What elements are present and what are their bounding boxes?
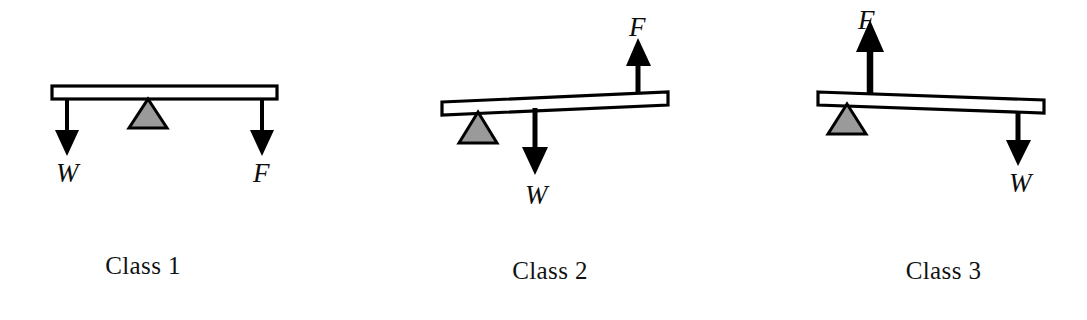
fulcrum-class-3 bbox=[828, 104, 866, 134]
force-label-f-class-2: F bbox=[629, 12, 646, 43]
force-label-f-class-3: F bbox=[858, 5, 875, 36]
beam-class-1 bbox=[52, 86, 277, 99]
lever-panel-class-1: W F Class 1 bbox=[0, 0, 370, 320]
force-label-w-class-3: W bbox=[1009, 168, 1032, 199]
caption-class-2: Class 2 bbox=[370, 257, 730, 285]
fulcrum-class-2 bbox=[459, 112, 497, 143]
force-arrow-w-class-1 bbox=[55, 99, 79, 156]
lever-classes-figure: W F Class 1 W F Class 2 bbox=[0, 0, 1087, 320]
force-arrow-f-class-1 bbox=[250, 99, 274, 156]
lever-panel-class-2: W F Class 2 bbox=[370, 0, 730, 320]
force-label-w-class-1: W bbox=[56, 158, 79, 189]
force-label-f-class-1: F bbox=[253, 158, 270, 189]
fulcrum-class-1 bbox=[129, 99, 167, 128]
force-label-w-class-2: W bbox=[525, 180, 548, 211]
lever-panel-class-3: F W Class 3 bbox=[730, 0, 1087, 320]
force-arrow-w-class-2 bbox=[522, 108, 548, 175]
force-arrow-w-class-3 bbox=[1006, 112, 1031, 166]
caption-class-3: Class 3 bbox=[765, 257, 1087, 285]
force-arrow-f-class-2 bbox=[626, 38, 651, 94]
caption-class-1: Class 1 bbox=[0, 252, 328, 280]
beam-class-2 bbox=[442, 92, 668, 115]
